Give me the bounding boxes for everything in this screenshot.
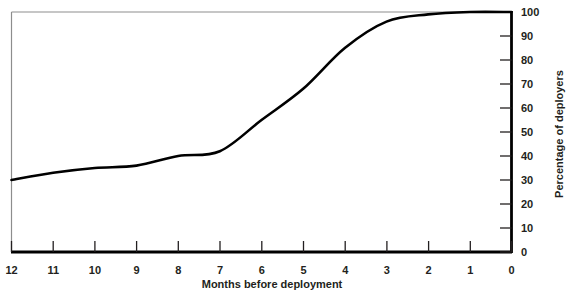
chart-background: [0, 0, 572, 294]
y-tick-label: 10: [521, 222, 533, 234]
y-tick-label: 40: [521, 150, 533, 162]
line-chart: 12 11 10 9 8 7 6 5 4 3 2 1 0 100 90 80 7…: [0, 0, 572, 294]
y-tick-label: 60: [521, 102, 533, 114]
x-axis-title: Months before deployment: [202, 278, 343, 290]
y-tick-label: 90: [521, 30, 533, 42]
x-tick-label: 9: [134, 264, 140, 276]
y-tick-label: 20: [521, 198, 533, 210]
x-tick-label: 0: [508, 264, 514, 276]
x-tick-label: 11: [47, 264, 59, 276]
y-tick-label: 80: [521, 54, 533, 66]
x-tick-label: 12: [5, 264, 17, 276]
x-tick-label: 8: [175, 264, 181, 276]
x-tick-label: 5: [300, 264, 306, 276]
x-tick-label: 4: [342, 264, 349, 276]
x-tick-label: 1: [467, 264, 473, 276]
x-tick-label: 2: [426, 264, 432, 276]
y-axis-title: Percentage of deployers: [553, 70, 565, 198]
x-tick-label: 7: [217, 264, 223, 276]
y-tick-label: 100: [521, 6, 539, 18]
x-tick-label: 3: [384, 264, 390, 276]
x-tick-label: 10: [89, 264, 101, 276]
y-tick-label: 70: [521, 78, 533, 90]
y-tick-label: 30: [521, 174, 533, 186]
y-tick-label: 50: [521, 126, 533, 138]
chart-container: 12 11 10 9 8 7 6 5 4 3 2 1 0 100 90 80 7…: [0, 0, 572, 294]
y-tick-label: 0: [521, 246, 527, 258]
x-tick-label: 6: [259, 264, 265, 276]
